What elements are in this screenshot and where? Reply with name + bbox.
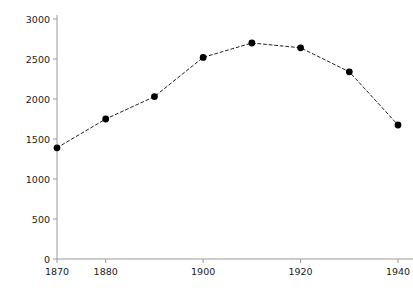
y-axis-tick-label: 3000 bbox=[26, 14, 50, 25]
data-point-marker[interactable]: 1930: 2340 bbox=[346, 68, 353, 75]
data-point-marker[interactable]: 1940: 1675 bbox=[395, 122, 402, 129]
data-point-marker[interactable]: 1900: 2520 bbox=[200, 54, 207, 61]
data-series-line bbox=[57, 43, 398, 148]
y-axis-tick-label: 1000 bbox=[26, 174, 50, 185]
chart-container: Number of Midwives in Public Employment … bbox=[0, 0, 413, 294]
x-axis-tick-label: 1900 bbox=[191, 266, 215, 277]
x-axis-tick-label: 1940 bbox=[386, 266, 410, 277]
line-chart-plot: 0500100015002000250030001870188019001920… bbox=[0, 0, 413, 294]
x-axis-tick-label: 1920 bbox=[288, 266, 312, 277]
data-point-marker[interactable]: 1910: 2700 bbox=[248, 40, 255, 47]
y-axis-tick-label: 2000 bbox=[26, 94, 50, 105]
x-axis-tick-label: 1870 bbox=[45, 266, 69, 277]
y-axis-tick-label: 2500 bbox=[26, 54, 50, 65]
x-axis-tick-label: 1880 bbox=[94, 266, 118, 277]
data-point-marker[interactable]: 1920: 2640 bbox=[297, 44, 304, 51]
y-axis-tick-label: 500 bbox=[32, 214, 50, 225]
y-axis-tick-label: 0 bbox=[44, 254, 50, 265]
data-point-marker[interactable]: 1870: 1390 bbox=[54, 144, 61, 151]
data-point-marker[interactable]: 1880: 1750 bbox=[102, 116, 109, 123]
y-axis-tick-label: 1500 bbox=[26, 134, 50, 145]
data-point-marker[interactable]: 1890: 2030 bbox=[151, 93, 158, 100]
